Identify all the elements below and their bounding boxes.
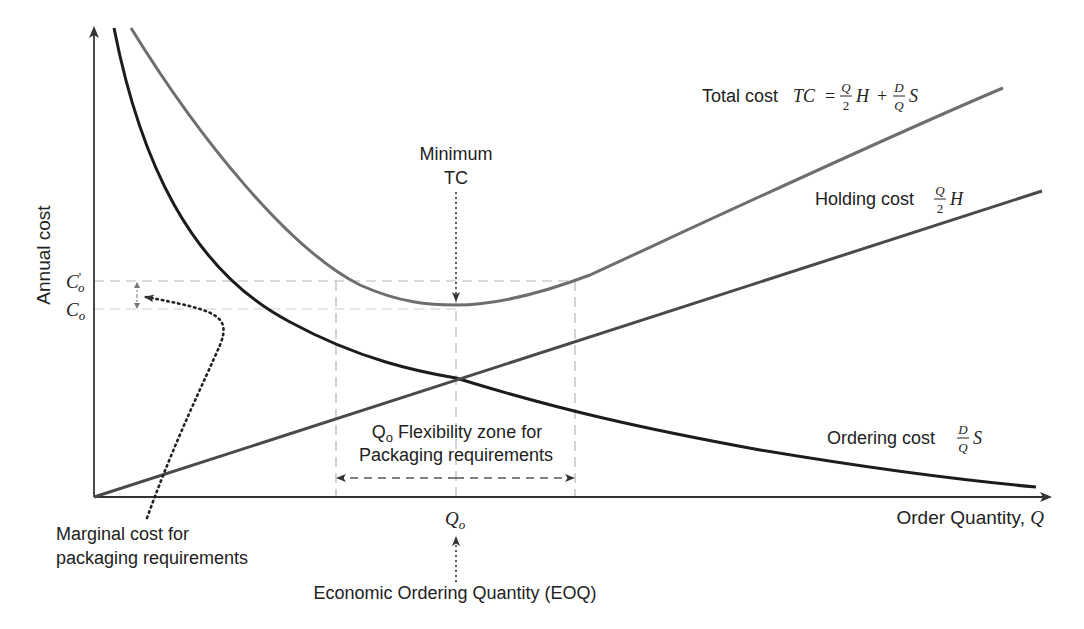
- y-tick-c0: Co: [66, 299, 86, 323]
- marginal-cost-pointer: [146, 297, 224, 518]
- svg-text:S: S: [909, 86, 918, 106]
- holding-cost-label: Holding cost Q 2 H: [815, 183, 964, 216]
- svg-text:2: 2: [937, 201, 944, 216]
- svg-text:2: 2: [843, 98, 850, 113]
- holding-cost-curve: [94, 191, 1042, 497]
- svg-text:+: +: [877, 86, 887, 106]
- eoq-label: Economic Ordering Quantity (EOQ): [313, 583, 596, 603]
- svg-text:Q: Q: [935, 183, 945, 198]
- y-axis-label: Annual cost: [33, 205, 54, 305]
- svg-text:Q: Q: [958, 440, 968, 455]
- minimum-tc-label-line2: TC: [444, 168, 468, 188]
- svg-text:S: S: [973, 428, 982, 448]
- svg-text:Ordering cost: Ordering cost: [827, 428, 935, 448]
- flex-zone-label-line2: Packaging requirements: [359, 445, 553, 465]
- svg-text:H: H: [949, 189, 964, 209]
- marginal-cost-label-line2: packaging requirements: [56, 548, 248, 568]
- eoq-diagram: Annual cost C'o Co Qo Order Quantity, Q …: [0, 0, 1084, 629]
- svg-text:Total cost: Total cost: [702, 86, 778, 106]
- svg-text:D: D: [893, 80, 904, 95]
- svg-text:H: H: [855, 86, 870, 106]
- x-tick-q0: Qo: [445, 508, 466, 532]
- marginal-cost-label-line1: Marginal cost for: [56, 524, 189, 544]
- svg-text:=: =: [825, 86, 835, 106]
- ordering-cost-label: Ordering cost D Q S: [827, 422, 982, 455]
- minimum-tc-label-line1: Minimum: [419, 144, 492, 164]
- total-cost-label: Total cost TC = Q 2 H + D Q S: [702, 80, 918, 113]
- svg-text:Q: Q: [841, 80, 851, 95]
- svg-text:Holding cost: Holding cost: [815, 189, 914, 209]
- x-axis-label: Order Quantity, Q: [897, 507, 1045, 528]
- svg-text:D: D: [957, 422, 968, 437]
- svg-text:Q: Q: [894, 98, 904, 113]
- y-tick-c0-prime: C'o: [66, 269, 85, 295]
- flex-zone-label-line1: Qo Flexibility zone for: [372, 422, 542, 445]
- total-cost-curve: [131, 28, 1003, 305]
- svg-text:TC: TC: [793, 86, 816, 106]
